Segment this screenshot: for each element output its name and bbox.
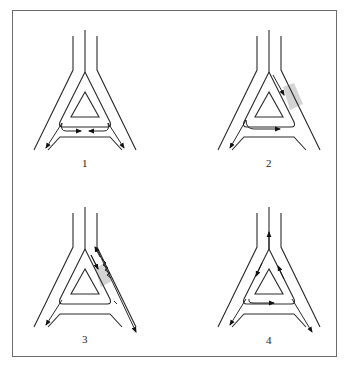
panel-label: 2 [266, 157, 272, 169]
merge-tick [114, 301, 117, 304]
panel-4: 4 [218, 207, 320, 346]
flow-arrow-down-inner-left [256, 263, 262, 276]
road-network [34, 30, 136, 150]
panel-label: 4 [266, 334, 272, 346]
diagram-canvas: 1 2 3 4 [0, 0, 350, 365]
panel-1: 1 [34, 30, 136, 169]
road-network [218, 30, 320, 150]
flow-arrow-right-crossbar [249, 299, 274, 303]
road-network [218, 207, 320, 327]
flow-arrow-up-inner-right [278, 266, 284, 279]
panel-label: 3 [82, 333, 88, 345]
road-network [34, 207, 136, 327]
panel-3: 3 [34, 207, 136, 345]
flow-arrow-down-right-outer [96, 247, 136, 332]
panel-2: 2 [218, 30, 320, 169]
panel-label: 1 [82, 157, 88, 169]
flow-arrow-right-crossbar [246, 120, 280, 129]
